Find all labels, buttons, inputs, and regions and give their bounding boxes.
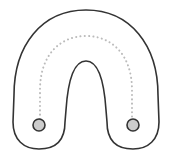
left-endpoint-node	[33, 119, 45, 131]
right-endpoint-node	[127, 119, 139, 131]
diagram-canvas	[0, 0, 172, 154]
horseshoe-diagram	[0, 0, 172, 154]
